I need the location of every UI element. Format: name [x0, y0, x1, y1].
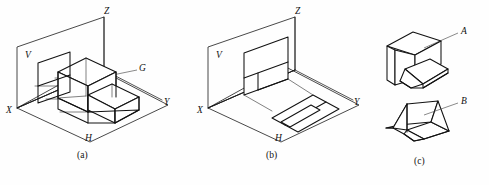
panel-c-b-left-rib-inner — [393, 104, 407, 130]
panel-b-projection-result — [208, 17, 359, 142]
technical-drawing-figure: Z V X Y G H (a) Z V X Y H (b) A B (c) — [0, 0, 489, 185]
panel-b-label-x: X — [197, 105, 203, 115]
panel-c-caption: (c) — [414, 156, 425, 166]
panel-b-label-y: Y — [354, 97, 359, 107]
panel-b-label-z: Z — [295, 6, 300, 16]
panel-b-caption: (b) — [266, 150, 277, 160]
panel-a-label-g: G — [139, 63, 146, 73]
panel-b-label-h: H — [275, 133, 282, 143]
panel-a-label-v: V — [25, 50, 31, 60]
panel-a-caption: (a) — [77, 150, 88, 160]
panel-c-solid-a — [387, 32, 458, 88]
panel-c-candidate-solids — [386, 32, 458, 141]
panel-a-projection-system — [17, 17, 168, 142]
panel-a-label-y: Y — [164, 97, 169, 107]
panel-a-label-h: H — [85, 133, 92, 143]
panel-c-label-b: B — [461, 96, 467, 106]
panel-a-label-z: Z — [104, 6, 109, 16]
panel-c-a-slab-left — [387, 46, 395, 85]
panel-c-solid-b — [386, 101, 458, 141]
panel-c-label-a: A — [461, 26, 467, 36]
panel-a-label-x: X — [6, 105, 12, 115]
panel-b-label-v: V — [216, 50, 222, 60]
